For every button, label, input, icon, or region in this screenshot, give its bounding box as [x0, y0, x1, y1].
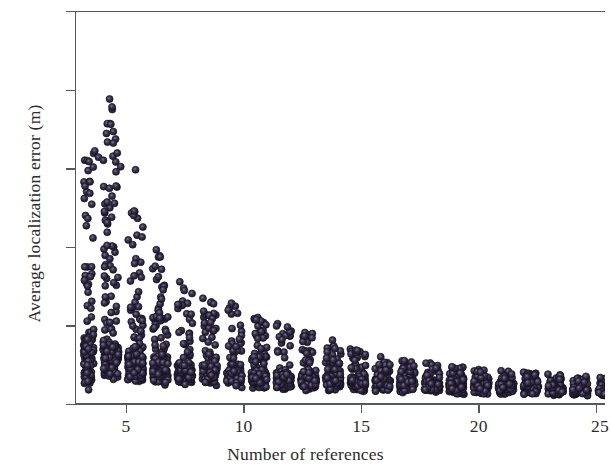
scatter-point	[132, 166, 139, 173]
scatter-point	[428, 380, 435, 387]
scatter-point	[110, 330, 117, 337]
scatter-point	[182, 381, 189, 388]
scatter-point	[423, 360, 430, 367]
x-tick-mark	[126, 404, 127, 413]
scatter-point	[84, 369, 91, 376]
scatter-point	[104, 229, 111, 236]
scatter-point	[151, 324, 158, 331]
scatter-point	[202, 379, 209, 386]
scatter-point	[278, 336, 285, 343]
scatter-point	[87, 273, 94, 280]
scatter-point	[155, 371, 162, 378]
scatter-point	[581, 379, 588, 386]
scatter-point	[84, 378, 91, 385]
scatter-point	[152, 342, 159, 349]
scatter-point	[157, 254, 164, 261]
scatter-point	[273, 384, 280, 391]
scatter-point	[199, 335, 206, 342]
scatter-point	[457, 370, 464, 377]
scatter-point	[300, 383, 307, 390]
scatter-point	[160, 286, 167, 293]
scatter-point	[81, 263, 88, 270]
y-tick-mark	[66, 90, 75, 91]
scatter-point	[210, 327, 217, 334]
scatter-point	[524, 379, 531, 386]
scatter-point	[164, 360, 171, 367]
scatter-point	[181, 287, 188, 294]
scatter-point	[188, 311, 195, 318]
scatter-point	[458, 384, 465, 391]
scatter-point	[329, 337, 336, 344]
scatter-point	[110, 266, 117, 273]
scatter-point	[109, 343, 116, 350]
scatter-point	[208, 372, 215, 379]
scatter-point	[188, 368, 195, 375]
scatter-point	[200, 308, 207, 315]
scatter-point	[113, 183, 120, 190]
scatter-point	[102, 354, 109, 361]
scatter-point	[375, 361, 382, 368]
y-tick-mark	[66, 247, 75, 248]
scatter-point	[85, 386, 92, 393]
scatter-point	[158, 296, 165, 303]
scatter-point	[127, 304, 134, 311]
scatter-point	[273, 322, 280, 329]
scatter-point	[125, 236, 132, 243]
y-tick-mark	[66, 11, 75, 12]
scatter-point	[86, 178, 93, 185]
scatter-point	[337, 371, 344, 378]
scatter-point	[174, 301, 181, 308]
scatter-point	[162, 328, 169, 335]
scatter-point	[477, 385, 484, 392]
scatter-point	[164, 314, 171, 321]
scatter-point	[544, 371, 551, 378]
scatter-point	[386, 383, 393, 390]
scatter-point	[199, 295, 206, 302]
scatter-point	[107, 121, 114, 128]
scatter-point	[113, 318, 120, 325]
scatter-point	[422, 386, 429, 393]
x-tick-mark	[361, 404, 362, 413]
scatter-point	[229, 325, 236, 332]
scatter-point	[263, 376, 270, 383]
scatter-point	[498, 367, 505, 374]
scatter-point	[84, 283, 91, 290]
scatter-point	[283, 371, 290, 378]
x-tick-mark	[478, 404, 479, 413]
scatter-point	[534, 378, 541, 385]
scatter-point	[305, 369, 312, 376]
scatter-point	[189, 290, 196, 297]
scatter-point	[303, 350, 310, 357]
scatter-point	[311, 377, 318, 384]
scatter-point	[111, 200, 118, 207]
scatter-point	[301, 332, 308, 339]
scatter-plot-figure: 25 20 15 10 5 0 5 1	[0, 0, 611, 474]
scatter-point	[102, 282, 109, 289]
scatter-point	[332, 377, 339, 384]
scatter-point	[115, 351, 122, 358]
scatter-point	[114, 370, 121, 377]
scatter-point	[109, 103, 116, 110]
scatter-point	[158, 334, 165, 341]
scatter-point	[117, 163, 124, 170]
y-axis-title: Average localization error (m)	[24, 14, 45, 414]
scatter-point	[104, 242, 111, 249]
scatter-point	[372, 388, 379, 395]
scatter-svg	[75, 11, 605, 404]
scatter-point	[135, 303, 142, 310]
scatter-point	[139, 360, 146, 367]
scatter-point	[212, 341, 219, 348]
scatter-point	[184, 348, 191, 355]
scatter-point	[156, 315, 163, 322]
x-tick-mark	[596, 404, 597, 413]
scatter-point	[348, 364, 355, 371]
scatter-point	[354, 347, 361, 354]
y-tick-mark	[66, 404, 75, 405]
scatter-point	[132, 343, 139, 350]
scatter-point	[436, 374, 443, 381]
scatter-point	[176, 329, 183, 336]
scatter-point	[233, 343, 240, 350]
scatter-point	[351, 357, 358, 364]
x-axis-title: Number of references	[0, 444, 611, 465]
scatter-point	[410, 363, 417, 370]
